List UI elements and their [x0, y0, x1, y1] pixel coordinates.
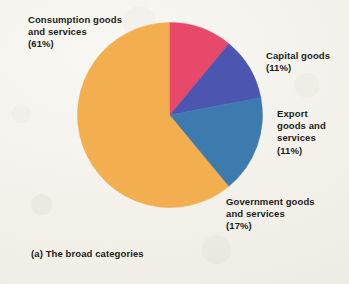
slice-label-capital-goods: Capital goods (11%): [266, 50, 346, 74]
slice-label-export-goods-and-services: Export goods and services (11%): [277, 108, 343, 157]
slice-label-government-goods-and-services: Government goods and services (17%): [226, 196, 346, 233]
slice-label-consumption-goods-and-services: Consumption goods and services (61%): [28, 14, 148, 51]
figure-caption: (a) The broad categories: [31, 248, 144, 259]
pie-chart-figure: Consumption goods and services (61%) Cap…: [0, 0, 349, 284]
